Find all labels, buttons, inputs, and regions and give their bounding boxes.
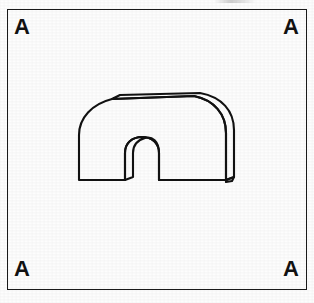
corner-label-bottom-left: A: [14, 258, 30, 280]
corner-label-top-left: A: [14, 16, 30, 38]
corner-label-top-right: A: [283, 16, 299, 38]
outer-border-rectangle: [7, 9, 307, 290]
scanned-figure-page: A A A A: [0, 0, 314, 303]
scan-artifact-top-edge: [214, 0, 256, 3]
corner-label-bottom-right: A: [283, 258, 299, 280]
